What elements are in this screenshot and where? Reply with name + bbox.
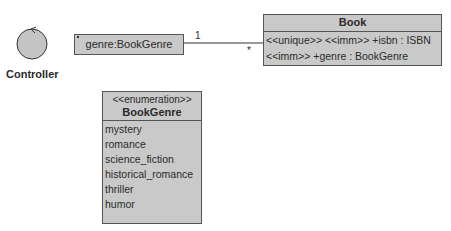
source-multiplicity: 1 [195, 30, 201, 41]
controller[interactable]: Controller [6, 22, 58, 82]
enumeration-header: <<enumeration>> BookGenre [103, 92, 201, 121]
literal-romance: romance [103, 137, 201, 152]
enumeration-name: BookGenre [103, 106, 201, 119]
enumeration-literals: mystery romance science_fiction historic… [103, 121, 201, 212]
target-multiplicity: * [247, 45, 251, 56]
literal-historical-romance: historical_romance [103, 167, 201, 182]
genre-object-label: genre:BookGenre [75, 35, 183, 54]
book-class[interactable]: Book <<unique>> <<imm>> +isbn : ISBN <<i… [263, 14, 442, 66]
book-class-name: Book [264, 15, 441, 32]
book-attributes: <<unique>> <<imm>> +isbn : ISBN <<imm>> … [264, 32, 441, 64]
literal-mystery: mystery [103, 122, 201, 137]
enumeration-stereotype: <<enumeration>> [103, 94, 201, 106]
attribute-isbn: <<unique>> <<imm>> +isbn : ISBN [264, 32, 441, 48]
bookgenre-enumeration[interactable]: <<enumeration>> BookGenre mystery romanc… [102, 91, 202, 224]
genre-object[interactable]: genre:BookGenre [74, 34, 184, 55]
object-corner-mark [77, 36, 79, 38]
attribute-genre: <<imm>> +genre : BookGenre [264, 48, 441, 64]
literal-science-fiction: science_fiction [103, 152, 201, 167]
literal-thriller: thriller [103, 182, 201, 197]
literal-humor: humor [103, 197, 201, 212]
controller-label: Controller [6, 68, 58, 80]
controller-icon [6, 22, 58, 62]
